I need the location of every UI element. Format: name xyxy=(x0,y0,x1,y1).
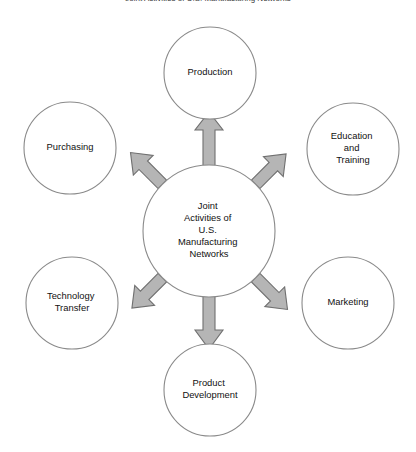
arrow-to-production xyxy=(195,112,223,168)
node-education-and-training[interactable]: Education and Training xyxy=(307,103,399,195)
node-marketing[interactable]: Marketing xyxy=(302,257,394,349)
arrow-to-product-development xyxy=(195,294,223,349)
node-marketing-label: Marketing xyxy=(327,296,368,307)
node-purchasing-label: Purchasing xyxy=(47,141,94,152)
node-production-label: Production xyxy=(188,66,233,77)
node-production[interactable]: Production xyxy=(164,27,256,119)
node-technology-transfer[interactable]: Technology Transfer xyxy=(26,257,118,349)
diagram-canvas: Joint Activities of U.S. Manufacturing N… xyxy=(0,0,416,452)
node-purchasing[interactable]: Purchasing xyxy=(24,102,116,194)
node-product-development[interactable]: Product Development xyxy=(164,344,256,436)
hub-and-spoke-svg: Production Education and Training Market… xyxy=(0,0,416,452)
center-node[interactable]: Joint Activities of U.S. Manufacturing N… xyxy=(143,165,275,297)
